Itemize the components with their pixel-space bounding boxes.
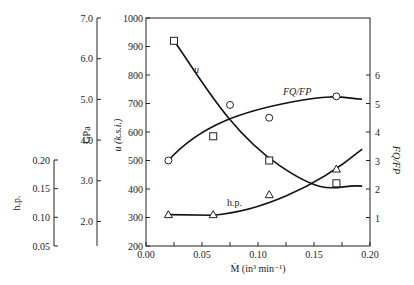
- u-tick-label: 900: [128, 41, 143, 52]
- gpa-tick-label: 5.0: [81, 94, 94, 105]
- x-tick-label: 0.05: [193, 249, 211, 260]
- u-curve-label: u: [194, 64, 199, 75]
- u-tick-label: 800: [128, 70, 143, 81]
- u-marker: [266, 157, 273, 164]
- fq-axis-label: FQ/FP: [391, 145, 402, 174]
- fq-marker: [333, 93, 340, 100]
- gpa-tick-label: 3.0: [81, 175, 94, 186]
- hp-marker: [265, 191, 273, 198]
- fq-tick-label: 2: [375, 184, 380, 195]
- gpa-tick-label: 2.0: [81, 216, 94, 227]
- hp-tick-label: 0.10: [33, 212, 51, 223]
- u-tick-label: 700: [128, 98, 143, 109]
- fq-marker: [227, 101, 234, 108]
- fq-tick-label: 1: [375, 213, 380, 224]
- hp-tick-label: 0.20: [33, 155, 51, 166]
- x-tick-label: 0.20: [361, 249, 379, 260]
- x-tick-label: 0.10: [249, 249, 267, 260]
- hp-axis-label: h.p.: [11, 196, 22, 211]
- u-tick-label: 300: [128, 212, 143, 223]
- fq-tick-label: 6: [375, 70, 380, 81]
- fq-curve: [168, 97, 362, 161]
- fq-tick-label: 3: [375, 156, 380, 167]
- hp-tick-label: 0.15: [33, 183, 51, 194]
- chart: 0.000.050.100.150.2020030040050060070080…: [0, 0, 414, 285]
- u-tick-label: 400: [128, 184, 143, 195]
- gpa-tick-label: 7.0: [81, 13, 94, 24]
- fq-marker: [266, 114, 273, 121]
- hp-marker: [209, 211, 217, 218]
- u-axis-label: u (k.s.i.): [112, 118, 124, 151]
- u-tick-label: 1000: [123, 13, 143, 24]
- plot-area: [146, 18, 370, 246]
- fq-tick-label: 4: [375, 127, 380, 138]
- u-tick-label: 600: [128, 127, 143, 138]
- gpa-axis-label: GPa: [81, 126, 92, 144]
- x-tick-label: 0.15: [305, 249, 323, 260]
- hp-curve-label: h.p.: [227, 197, 242, 208]
- u-marker: [333, 180, 340, 187]
- u-tick-label: 500: [128, 155, 143, 166]
- gpa-tick-label: 6.0: [81, 53, 94, 64]
- u-tick-label: 200: [128, 241, 143, 252]
- fq-marker: [165, 157, 172, 164]
- u-marker: [210, 133, 217, 140]
- fq-curve-label: FQ/FP: [282, 86, 311, 97]
- fq-tick-label: 5: [375, 99, 380, 110]
- u-marker: [171, 37, 178, 44]
- x-axis-label: Ṁ (in³ min⁻¹): [230, 263, 285, 275]
- hp-tick-label: 0.05: [33, 241, 51, 252]
